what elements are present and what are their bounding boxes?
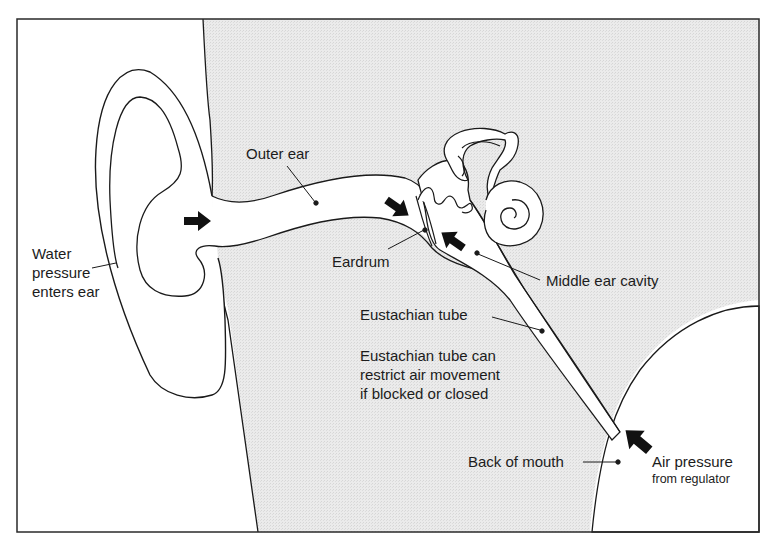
eustachian-note-line-1: Eustachian tube can <box>360 346 500 365</box>
cochlea <box>484 181 543 246</box>
label-eustachian-note: Eustachian tube can restrict air movemen… <box>360 346 500 403</box>
label-air-pressure-sub: from regulator <box>652 472 730 487</box>
label-back-of-mouth: Back of mouth <box>468 452 564 471</box>
label-eustachian-tube: Eustachian tube <box>360 305 468 324</box>
label-water-pressure: Water pressure enters ear <box>32 244 100 301</box>
water-pressure-line-1: Water <box>32 244 100 263</box>
water-pressure-line-3: enters ear <box>32 282 100 301</box>
water-pressure-line-2: pressure <box>32 263 100 282</box>
eustachian-note-line-3: if blocked or closed <box>360 384 500 403</box>
label-outer-ear: Outer ear <box>246 144 309 163</box>
eustachian-note-line-2: restrict air movement <box>360 365 500 384</box>
label-air-pressure: Air pressure <box>652 452 733 471</box>
label-eardrum: Eardrum <box>332 252 390 271</box>
label-middle-ear-cavity: Middle ear cavity <box>546 271 659 290</box>
